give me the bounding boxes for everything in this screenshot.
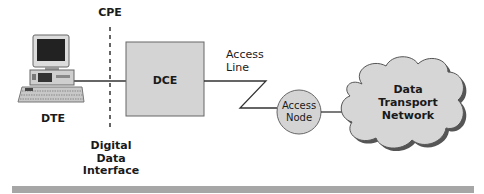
dte-label: DTE bbox=[36, 112, 70, 125]
digital-data-interface-label: Digital Data Interface bbox=[80, 140, 142, 178]
computer-icon bbox=[18, 35, 84, 102]
network-label: Data Transport Network bbox=[358, 83, 458, 122]
footer-bar bbox=[12, 186, 474, 193]
cpe-label: CPE bbox=[95, 6, 125, 19]
access-node-label: Access Node bbox=[279, 100, 319, 124]
dce-label: DCE bbox=[126, 74, 204, 87]
access-line bbox=[204, 81, 277, 108]
access-line-label: Access Line bbox=[226, 48, 266, 74]
